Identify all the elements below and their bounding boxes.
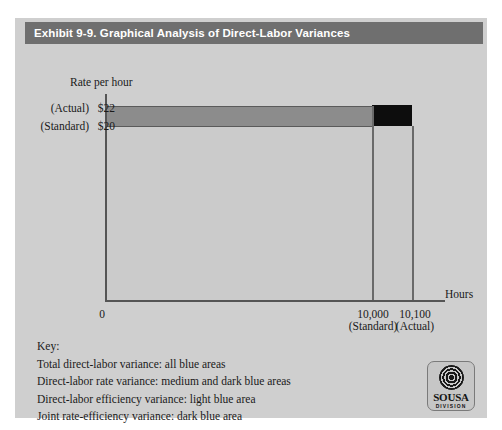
exhibit-title-bar: Exhibit 9-9. Graphical Analysis of Direc… — [25, 22, 483, 44]
y-tick-standard-qualifier: (Standard) — [27, 120, 89, 132]
exhibit-title: Exhibit 9-9. Graphical Analysis of Direc… — [25, 27, 350, 39]
y-axis-title: Rate per hour — [70, 76, 133, 88]
y-tick-actual: (Actual)$22 — [27, 102, 115, 114]
key-item-rate-variance: Direct-labor rate variance: medium and d… — [37, 373, 437, 391]
concentric-disc-icon — [439, 365, 464, 390]
key-item-efficiency-variance: Direct-labor efficiency variance: light … — [37, 391, 437, 409]
key-heading: Key: — [37, 338, 437, 356]
region-rate-variance — [107, 106, 372, 127]
region-joint-rate-efficiency-variance — [372, 105, 412, 126]
exhibit-page: Exhibit 9-9. Graphical Analysis of Direc… — [0, 0, 502, 430]
region-efficiency-variance — [107, 124, 374, 301]
x-tick-actual-value: 10,100 — [399, 308, 431, 320]
x-tick-zero: 0 — [87, 308, 117, 320]
y-tick-actual-value: $22 — [89, 102, 115, 114]
region-efficiency-strip — [372, 126, 414, 301]
y-tick-actual-qualifier: (Actual) — [27, 102, 89, 114]
y-tick-standard: (Standard)$20 — [27, 120, 115, 132]
x-tick-actual: 10,100 (Actual) — [377, 308, 453, 332]
standard-hours-gridline — [372, 106, 374, 301]
chart-area: Rate per hour Hours (Actual)$22 (Standar… — [15, 50, 487, 335]
y-tick-standard-value: $20 — [89, 120, 115, 132]
key-item-joint-variance: Joint rate-efficiency variance: dark blu… — [37, 408, 437, 426]
key-item-total-variance: Total direct-labor variance: all blue ar… — [37, 356, 437, 374]
exhibit-panel: Exhibit 9-9. Graphical Analysis of Direc… — [15, 18, 487, 418]
key-legend: Key: Total direct-labor variance: all bl… — [37, 338, 437, 426]
x-axis-title: Hours — [445, 288, 473, 300]
x-axis-line — [105, 300, 445, 302]
x-tick-actual-qualifier: (Actual) — [377, 320, 453, 332]
sousa-division-logo: SOUSA DIVISION — [427, 361, 475, 411]
logo-name: SOUSA — [433, 391, 469, 403]
logo-subtitle: DIVISION — [436, 403, 467, 410]
